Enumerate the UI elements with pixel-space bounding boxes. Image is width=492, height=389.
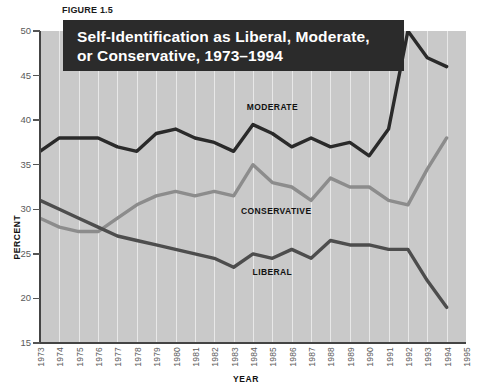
x-tick-label-1994: 1994 [443,347,453,367]
x-tick-label-1995: 1995 [462,347,472,367]
y-tick-15 [33,342,40,344]
y-tick-30 [33,209,40,211]
x-tick-label-1991: 1991 [385,347,395,367]
figure-caption: FIGURE 1.5 [62,5,113,15]
x-tick-label-1978: 1978 [133,347,143,367]
y-tick-label-20: 20 [5,292,31,303]
y-tick-25 [33,253,40,255]
y-tick-label-35: 35 [5,159,31,170]
x-tick-label-1977: 1977 [113,347,123,367]
x-tick-label-1982: 1982 [210,347,220,367]
y-tick-45 [33,75,40,77]
x-tick-label-1980: 1980 [172,347,182,367]
chart-title-line-1: Self-Identification as Liberal, Moderate… [77,27,392,46]
plot-area [40,31,466,343]
series-line-liberal [40,200,447,307]
x-tick-label-1992: 1992 [404,347,414,367]
annotation-moderate: MODERATE [247,102,298,112]
x-tick-label-1984: 1984 [249,347,259,367]
x-tick-label-1993: 1993 [423,347,433,367]
x-tick-label-1990: 1990 [365,347,375,367]
figure-root: FIGURE 1.5 Self-Identification as Libera… [0,0,492,389]
x-tick-label-1973: 1973 [36,347,46,367]
x-tick-label-1976: 1976 [94,347,104,367]
y-tick-20 [33,298,40,300]
series-lines [40,31,466,343]
y-tick-label-50: 50 [5,25,31,36]
x-tick-label-1988: 1988 [326,347,336,367]
x-tick-label-1986: 1986 [288,347,298,367]
x-axis [39,342,466,344]
y-tick-40 [33,119,40,121]
x-tick-label-1985: 1985 [268,347,278,367]
x-tick-label-1979: 1979 [152,347,162,367]
x-tick-label-1989: 1989 [346,347,356,367]
x-tick-label-1974: 1974 [55,347,65,367]
y-tick-50 [33,30,40,32]
y-axis [39,31,41,343]
x-axis-title: YEAR [0,374,492,384]
y-tick-label-15: 15 [5,337,31,348]
y-tick-35 [33,164,40,166]
chart-title-line-2: or Conservative, 1973–1994 [77,46,392,65]
x-tick-label-1983: 1983 [230,347,240,367]
annotation-conservative: CONSERVATIVE [241,206,311,216]
x-tick-label-1981: 1981 [191,347,201,367]
y-tick-label-45: 45 [5,70,31,81]
series-line-conservative [40,138,447,232]
y-axis-title: PERCENT [12,207,22,267]
x-tick-label-1975: 1975 [75,347,85,367]
y-axis-ticks: 1520253035404550 [0,0,31,389]
chart-title-banner: Self-Identification as Liberal, Moderate… [63,20,404,71]
annotation-liberal: LIBERAL [253,267,293,277]
x-tick-label-1987: 1987 [307,347,317,367]
y-tick-label-40: 40 [5,114,31,125]
